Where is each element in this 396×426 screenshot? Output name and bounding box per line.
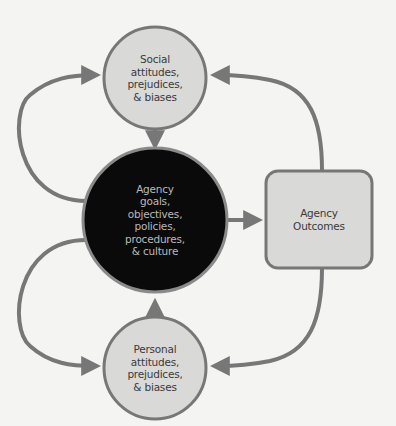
label-line: Agency [300, 207, 338, 220]
label-line: attitudes, [131, 66, 179, 79]
label-agency-goals: Agency goals, objectives, policies, proc… [95, 160, 215, 280]
edge-outcomes-to-social [217, 75, 322, 170]
label-line: prejudices, [127, 78, 182, 91]
diagram-canvas: Social attitudes, prejudices, & biases A… [0, 0, 396, 426]
label-line: Outcomes [293, 220, 345, 233]
edge-agency-to-personal [19, 240, 94, 366]
label-line: objectives, [128, 208, 183, 221]
label-agency-outcomes: Agency Outcomes [266, 171, 372, 268]
label-line: prejudices, [127, 368, 182, 381]
edge-outcomes-to-personal [217, 268, 322, 366]
edge-agency-to-social [19, 75, 94, 201]
label-line: goals, [140, 195, 170, 208]
label-social-attitudes: Social attitudes, prejudices, & biases [105, 28, 205, 128]
label-personal-attitudes: Personal attitudes, prejudices, & biases [105, 318, 205, 418]
label-line: Agency [136, 183, 174, 196]
label-line: policies, [134, 220, 175, 233]
label-line: Social [140, 53, 170, 66]
label-line: procedures, [125, 233, 185, 246]
label-line: Personal [133, 343, 176, 356]
label-line: attitudes, [131, 356, 179, 369]
label-line: & culture [132, 245, 178, 258]
label-line: & biases [133, 91, 176, 104]
label-line: & biases [133, 381, 176, 394]
